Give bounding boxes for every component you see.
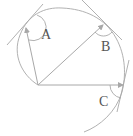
angle-arc-c bbox=[110, 85, 121, 98]
tangent-line-a bbox=[7, 4, 43, 45]
tangent-line-c bbox=[117, 60, 129, 112]
geometry-diagram: A B C bbox=[0, 0, 133, 136]
angle-arc-b bbox=[95, 32, 112, 36]
label-a: A bbox=[41, 27, 52, 42]
label-b: B bbox=[101, 39, 110, 54]
label-c: C bbox=[99, 94, 108, 109]
tangent-line-b bbox=[82, 0, 122, 40]
